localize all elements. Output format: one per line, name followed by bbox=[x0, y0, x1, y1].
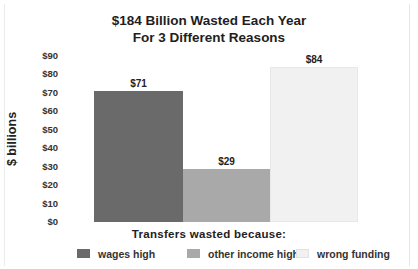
legend-item-other-income-high: other income high bbox=[187, 248, 299, 259]
bar-wrong-funding bbox=[270, 67, 358, 222]
chart-title: $184 Billion Wasted Each Year bbox=[0, 12, 418, 29]
y-tick-label: $60 bbox=[30, 106, 58, 116]
bar-wages-high bbox=[94, 91, 183, 222]
y-tick-label: $10 bbox=[30, 199, 58, 209]
bar-value-label: $84 bbox=[270, 54, 358, 65]
y-tick-label: $20 bbox=[30, 180, 58, 190]
y-tick-label: $40 bbox=[30, 143, 58, 153]
legend-item-wages-high: wages high bbox=[77, 248, 155, 259]
y-tick-label: $0 bbox=[30, 217, 58, 227]
legend-label: other income high bbox=[208, 248, 299, 260]
chart-subtitle: For 3 Different Reasons bbox=[0, 29, 418, 46]
y-tick-label: $70 bbox=[30, 88, 58, 98]
bar-value-label: $29 bbox=[183, 156, 270, 167]
y-tick-label: $90 bbox=[30, 51, 58, 61]
legend-swatch-icon bbox=[296, 249, 309, 258]
y-tick-label: $80 bbox=[30, 69, 58, 79]
legend-swatch-icon bbox=[187, 249, 200, 258]
legend-swatch-icon bbox=[77, 249, 90, 258]
legend-label: wrong funding bbox=[317, 248, 390, 260]
legend-label: wages high bbox=[98, 248, 155, 260]
bar-other-income-high bbox=[183, 169, 270, 222]
y-tick-label: $30 bbox=[30, 162, 58, 172]
legend-item-wrong-funding: wrong funding bbox=[296, 248, 390, 259]
bar-value-label: $71 bbox=[94, 78, 183, 89]
y-axis-label: $ billions bbox=[5, 99, 19, 179]
y-tick-label: $50 bbox=[30, 125, 58, 135]
x-axis-label: Transfers wasted because: bbox=[0, 228, 418, 240]
